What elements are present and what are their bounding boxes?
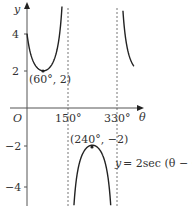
origin-label: O — [13, 112, 22, 125]
min-point-label: (60°, 2) — [29, 73, 71, 86]
x-tick-label-330: 330° — [104, 112, 131, 125]
sec-graph: y θ O 4 2 −2 −4 150° 330° (60°, 2) (240°… — [0, 0, 192, 206]
curve-right-branch — [123, 11, 134, 66]
x-axis-label: θ — [139, 111, 146, 124]
y-tick-label-m4: −4 — [5, 181, 21, 194]
x-tick-label-150: 150° — [55, 112, 82, 125]
max-point-label: (240°, −2) — [70, 133, 128, 146]
curve-left-branch — [27, 7, 62, 71]
y-tick-label-2: 2 — [12, 65, 19, 78]
y-tick-label-4: 4 — [12, 28, 19, 41]
y-tick-label-m2: −2 — [5, 140, 21, 153]
y-axis-label: y — [13, 3, 21, 16]
curve-middle-branch — [74, 145, 111, 205]
equation-y: y — [114, 157, 122, 170]
y-axis-arrow-icon — [24, 2, 30, 9]
equation-label: = 2sec (θ − 60°) — [123, 157, 192, 170]
